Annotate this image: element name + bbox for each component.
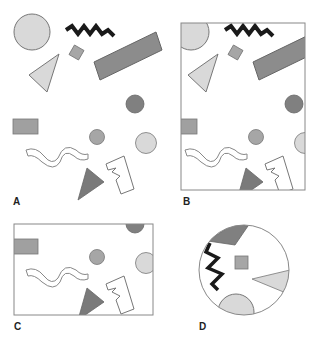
panel-a-label: A	[13, 196, 20, 207]
panel-c	[13, 134, 162, 320]
light-semicircle	[218, 294, 254, 330]
panel-d	[199, 224, 290, 330]
panel-b	[172, 14, 312, 200]
small-square	[235, 256, 248, 269]
figure	[0, 0, 312, 338]
panel-c-label: C	[14, 321, 21, 332]
panel-d-label: D	[199, 321, 206, 332]
panel-a	[13, 14, 162, 200]
dark-wedge	[208, 224, 248, 245]
black-zigzag-vertical	[206, 243, 222, 290]
panel-b-label: B	[183, 196, 190, 207]
